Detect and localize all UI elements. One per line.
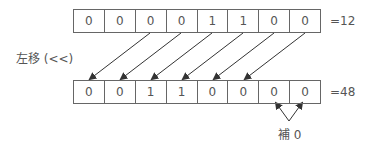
bit-cell: 1 — [167, 81, 198, 103]
after-bit-row: 0 0 1 1 0 0 0 0 — [73, 80, 321, 104]
bit-cell: 0 — [290, 81, 320, 103]
after-value-label: =48 — [330, 85, 355, 99]
padding-label: 補 0 — [278, 125, 301, 142]
bit-cell: 0 — [198, 81, 229, 103]
arrow-icon — [245, 33, 305, 79]
arrow-icon — [183, 33, 243, 79]
bit-cell: 0 — [259, 81, 290, 103]
arrow-icon — [276, 103, 289, 121]
bit-cell: 0 — [105, 81, 136, 103]
arrow-icon — [214, 33, 274, 79]
bit-cell: 0 — [228, 81, 259, 103]
shift-arrows — [0, 0, 368, 144]
arrow-icon — [289, 103, 302, 121]
arrow-icon — [121, 33, 181, 79]
padding-arrows — [276, 103, 302, 121]
arrow-icon — [152, 33, 212, 79]
bit-cell: 1 — [136, 81, 167, 103]
diagonal-shift-lines — [90, 33, 305, 79]
bit-cell: 0 — [74, 81, 105, 103]
arrow-icon — [90, 33, 150, 79]
